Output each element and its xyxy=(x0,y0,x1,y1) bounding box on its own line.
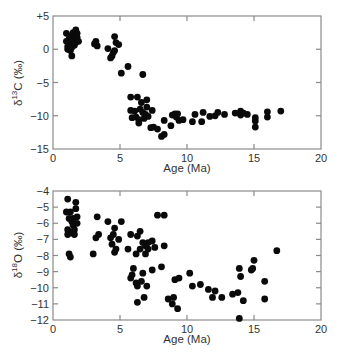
data-point xyxy=(161,117,168,124)
data-point xyxy=(277,108,284,115)
data-point xyxy=(198,118,205,125)
data-point xyxy=(137,228,144,235)
y-tick-label: −4 xyxy=(36,185,49,197)
data-point xyxy=(135,120,142,127)
y-tick-label: −8 xyxy=(36,250,49,262)
data-point xyxy=(161,212,168,219)
data-point xyxy=(249,265,256,272)
x-tick-label: 15 xyxy=(248,323,260,335)
data-point xyxy=(111,47,118,54)
data-point xyxy=(105,45,112,52)
y-tick-label: −12 xyxy=(30,314,49,326)
x-tick-label: 0 xyxy=(50,323,56,335)
data-point xyxy=(68,53,75,60)
data-point xyxy=(125,63,132,70)
y-tick-label: −6 xyxy=(36,217,49,229)
data-point xyxy=(240,297,247,304)
data-point xyxy=(139,270,146,277)
data-point xyxy=(174,110,181,117)
x-tick-label: 5 xyxy=(117,323,123,335)
data-point xyxy=(134,299,141,306)
data-point xyxy=(94,43,101,50)
data-point xyxy=(212,288,219,295)
data-point xyxy=(67,254,74,261)
plot-frame xyxy=(53,16,321,149)
data-point xyxy=(113,246,120,253)
data-point xyxy=(237,273,244,280)
data-point xyxy=(252,124,259,131)
data-point xyxy=(110,231,117,238)
data-point xyxy=(75,38,82,45)
y-tick-label: −5 xyxy=(36,201,49,213)
data-point xyxy=(141,294,148,301)
data-point xyxy=(130,265,137,272)
data-point xyxy=(115,41,122,48)
data-point xyxy=(214,109,221,116)
data-point xyxy=(149,107,156,114)
y-tick-label: −10 xyxy=(30,282,49,294)
data-points xyxy=(63,27,284,140)
data-point xyxy=(143,96,150,103)
data-point xyxy=(90,251,97,258)
data-point xyxy=(168,122,175,129)
y-tick-label: −11 xyxy=(31,298,49,310)
data-point xyxy=(189,118,196,125)
y-tick-label: −5 xyxy=(36,77,49,89)
y-axis-title: δ18O (‰) xyxy=(10,232,24,279)
data-point xyxy=(111,225,118,232)
data-point xyxy=(200,109,207,116)
data-point xyxy=(180,116,187,123)
figure-canvas: 05101520+50−5−10−15Age (Ma)δ13C (‰) 0510… xyxy=(0,0,340,359)
x-tick-label: 0 xyxy=(50,152,56,164)
data-point xyxy=(151,244,158,251)
data-point xyxy=(94,213,101,220)
data-point xyxy=(74,30,81,37)
data-point xyxy=(236,315,243,322)
data-point xyxy=(95,231,102,238)
data-point xyxy=(158,263,165,270)
data-point xyxy=(72,199,79,206)
x-tick-label: 5 xyxy=(117,152,123,164)
data-point xyxy=(197,281,204,288)
data-point xyxy=(174,305,181,312)
data-point xyxy=(264,114,271,121)
data-point xyxy=(161,242,168,249)
y-tick-label: 0 xyxy=(43,43,49,55)
data-point xyxy=(74,213,81,220)
data-point xyxy=(145,113,152,120)
data-point xyxy=(261,296,268,303)
x-axis-title: Age (Ma) xyxy=(163,333,210,345)
data-point xyxy=(273,247,280,254)
data-point xyxy=(111,33,118,40)
data-point xyxy=(154,126,161,133)
data-point xyxy=(189,283,196,290)
data-point xyxy=(118,218,125,225)
data-point xyxy=(145,246,152,253)
data-points xyxy=(63,196,280,322)
data-point xyxy=(129,271,136,278)
data-point xyxy=(134,94,141,101)
chart-delta18o: 05101520−4−5−6−7−8−9−10−11−12Age (Ma)δ18… xyxy=(10,185,327,345)
data-point xyxy=(154,212,161,219)
data-point xyxy=(127,231,134,238)
data-point xyxy=(72,205,79,212)
data-point xyxy=(169,301,176,308)
data-point xyxy=(244,111,251,118)
data-point xyxy=(118,70,125,77)
data-point xyxy=(251,257,258,264)
y-tick-label: −7 xyxy=(36,233,49,245)
data-point xyxy=(143,283,150,290)
data-point xyxy=(176,275,183,282)
data-point xyxy=(105,218,112,225)
x-axis-title: Age (Ma) xyxy=(163,162,210,174)
y-tick-label: +5 xyxy=(36,10,49,22)
data-point xyxy=(161,131,168,138)
data-point xyxy=(125,246,132,253)
data-point xyxy=(138,278,145,285)
data-point xyxy=(205,286,212,293)
data-point xyxy=(192,111,199,118)
x-tick-label: 20 xyxy=(315,152,327,164)
data-point xyxy=(139,71,146,78)
data-point xyxy=(261,278,268,285)
data-point xyxy=(115,236,122,243)
